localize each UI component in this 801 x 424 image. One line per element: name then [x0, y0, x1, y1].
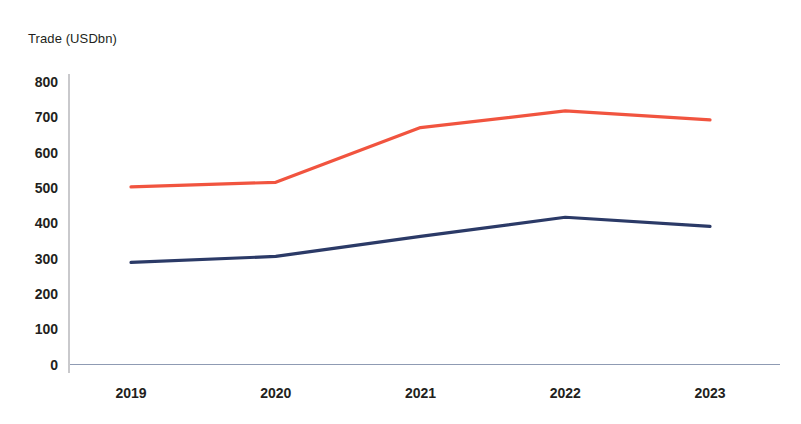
- x-tick-label: 2022: [550, 385, 581, 401]
- x-tick-label: 2021: [405, 385, 436, 401]
- x-tick-label: 2020: [260, 385, 291, 401]
- x-tick-label: 2019: [115, 385, 146, 401]
- series-line-series-navy: [131, 217, 710, 262]
- line-chart: Trade (USDbn) 0100200300400500600700800 …: [0, 0, 801, 424]
- series-line-series-red: [131, 111, 710, 187]
- x-axis-tick-labels: 20192020202120222023: [68, 385, 780, 409]
- series-plot: [0, 0, 801, 424]
- x-tick-label: 2023: [694, 385, 725, 401]
